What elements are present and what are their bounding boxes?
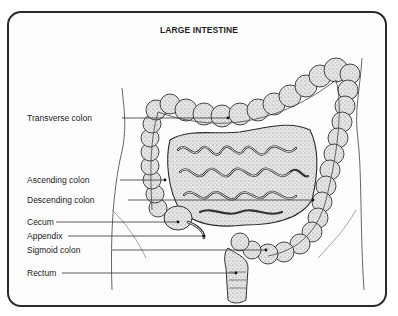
cecum bbox=[164, 206, 192, 230]
label-cecum: Cecum bbox=[27, 217, 54, 227]
large-intestine-illustration bbox=[0, 0, 398, 316]
label-appendix: Appendix bbox=[27, 231, 62, 241]
label-rectum: Rectum bbox=[27, 268, 56, 278]
label-sigmoid-colon: Sigmoid colon bbox=[27, 245, 80, 255]
label-transverse-colon: Transverse colon bbox=[27, 113, 92, 123]
label-descending-colon: Descending colon bbox=[27, 195, 95, 205]
rectum bbox=[225, 248, 248, 303]
label-ascending-colon: Ascending colon bbox=[27, 175, 89, 185]
